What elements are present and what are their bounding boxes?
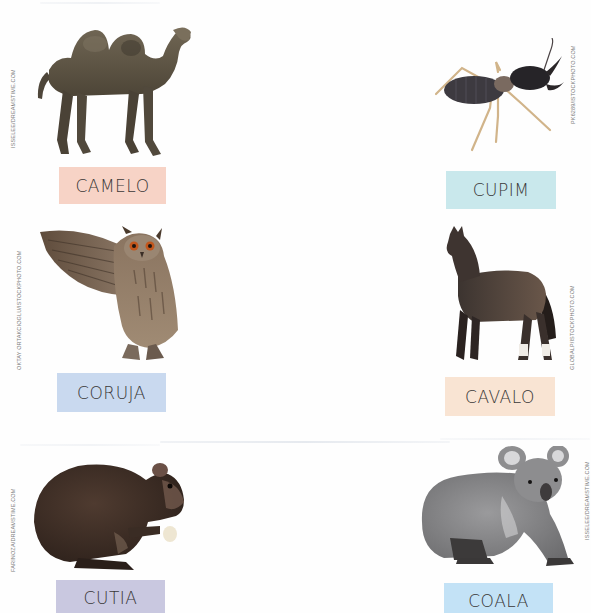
animal-label: CUPIM <box>446 171 556 209</box>
termite-photo <box>432 38 566 156</box>
koala-photo <box>418 446 578 576</box>
camel-photo <box>33 22 193 160</box>
agouti-photo <box>30 458 190 570</box>
photo-credit: GLOBALP/ISTOCKPHOTO.COM <box>569 285 575 370</box>
photo-credit: ISSELEE/DREAMSTIME.COM <box>584 461 590 540</box>
textbook-page: ISSELEE/DREAMSTIME.COM <box>0 0 591 613</box>
photo-credit: OKTAY ORTAKCIOGLU/ISTOCKPHOTO.COM <box>16 251 22 370</box>
photo-credit: PK6289/ISTOCKPHOTO.COM <box>570 45 576 124</box>
horse-photo <box>444 226 560 368</box>
animal-card-cutia: FARINOZA/DREAMSTIME.COM <box>0 430 220 613</box>
photo-credit: ISSELEE/DREAMSTIME.COM <box>10 69 16 148</box>
photo-credit: FARINOZA/DREAMSTIME.COM <box>10 488 16 572</box>
animal-label: COALA <box>444 583 553 613</box>
animal-label: CAMELO <box>59 167 166 204</box>
animal-card-camelo: ISSELEE/DREAMSTIME.COM <box>0 0 220 210</box>
animal-label: CAVALO <box>445 377 555 416</box>
animal-card-cupim: PK6289/ISTOCKPHOTO.COM <box>400 0 591 215</box>
animal-card-cavalo: GLOBALP/ISTOCKPHOTO.COM <box>400 210 591 425</box>
animal-card-coruja: OKTAY ORTAKCIOGLU/ISTOCKPHOTO.COM <box>0 210 220 420</box>
owl-photo <box>38 226 186 366</box>
animal-label: CORUJA <box>57 373 166 412</box>
animal-card-coala: ISSELEE/DREAMSTIME.COM <box>400 430 591 613</box>
animal-label: CUTIA <box>56 580 165 613</box>
